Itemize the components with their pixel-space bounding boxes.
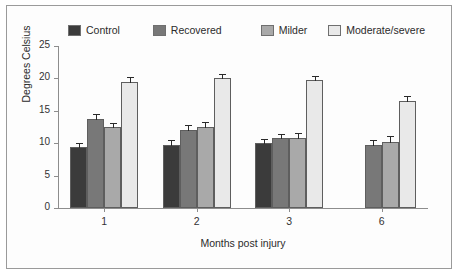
error-bar-cap [312,76,319,77]
bar [214,78,231,208]
error-bar-cap [168,140,175,141]
legend-item-label: Control [86,25,120,36]
bar [197,127,214,208]
chart-legend: ControlRecoveredMilderModerate/severe [68,22,438,38]
bar [306,80,323,208]
x-tick-mark [289,208,290,212]
y-axis-label: Degrees Celsius [20,4,32,124]
x-tick-mark [382,208,383,212]
bar [70,147,87,208]
y-tick-label: 15 [39,104,50,115]
bar [399,101,416,208]
legend-swatch-icon [328,25,341,36]
error-bar-cap [76,143,83,144]
x-tick-label: 6 [379,215,385,227]
legend-item-recovered: Recovered [153,25,222,36]
x-tick-mark [104,208,105,212]
error-bar-cap [93,114,100,115]
error-bar-cap [219,74,226,75]
error-bar-cap [127,77,134,78]
legend-swatch-icon [261,25,274,36]
legend-swatch-icon [153,25,166,36]
bar [104,127,121,208]
bar [87,119,104,208]
legend-item-milder: Milder [261,25,308,36]
bar [121,82,138,208]
x-tick-label: 2 [194,215,200,227]
error-bar-cap [404,96,411,97]
error-bar-cap [295,133,302,134]
bar [163,145,180,209]
bar [382,142,399,208]
bar [255,143,272,208]
plot-area [58,46,428,208]
x-tick-label: 3 [286,215,292,227]
y-tick-label: 20 [39,71,50,82]
error-bar-cap [387,136,394,137]
x-tick-label: 1 [101,215,107,227]
bar-chart-figure: ControlRecoveredMilderModerate/severe 05… [0,0,458,275]
y-tick-label: 5 [44,169,50,180]
y-tick-label: 0 [44,201,50,212]
y-tick-mark [54,208,58,209]
bar [289,138,306,208]
legend-item-label: Milder [279,25,308,36]
error-bar-cap [261,139,268,140]
error-bar-cap [185,125,192,126]
error-bar-cap [278,134,285,135]
error-bar-cap [202,122,209,123]
legend-item-label: Moderate/severe [346,25,425,36]
error-bar-cap [370,140,377,141]
legend-swatch-icon [68,25,81,36]
bar [272,138,289,208]
y-tick-label: 25 [39,39,50,50]
legend-item-control: Control [68,25,120,36]
bar [365,145,382,209]
x-axis-label: Months post injury [58,237,428,249]
x-axis-line [58,208,428,209]
y-tick-label: 10 [39,136,50,147]
legend-item-moderate-severe: Moderate/severe [328,25,425,36]
bar [180,130,197,208]
error-bar-cap [110,123,117,124]
legend-item-label: Recovered [171,25,222,36]
x-tick-mark [197,208,198,212]
